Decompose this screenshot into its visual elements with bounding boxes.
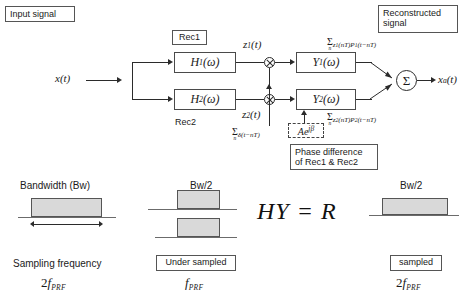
interpolator-y1-block: Y1(ω) <box>296 52 356 73</box>
phase-term-exponent: jβ <box>308 124 314 133</box>
y2-input-arrowhead-icon <box>290 96 295 102</box>
figure-root: { "annotations": { "input_signal": "Inpu… <box>0 0 466 302</box>
bandwidth-col3-rect <box>382 198 448 215</box>
bandwidth-col1-baseline <box>18 217 116 218</box>
phase-term-expression: Aejβ <box>298 124 314 137</box>
bandwidth-col2-rate: fPRF <box>185 275 203 292</box>
split-vertical-wire <box>132 62 133 99</box>
summation-node-icon: Σ <box>396 70 417 91</box>
bandwidth-col2-baseline-upper <box>148 209 237 210</box>
phase-difference-label: Phase difference of Rec1 & Rec2 <box>290 144 378 170</box>
y1-input-arrowhead-icon <box>290 59 295 65</box>
sampling-train-wire <box>269 68 270 126</box>
bandwidth-col3-caption: sampled <box>390 255 442 271</box>
input-signal-label: Input signal <box>5 6 75 22</box>
z1-wire <box>236 62 264 63</box>
signal-z2-arg: (t) <box>250 108 260 120</box>
bandwidth-col3-baseline <box>369 215 459 216</box>
input-wire <box>86 80 118 81</box>
rec2-label: Rec2 <box>175 117 196 127</box>
output-signal-label: xa(t) <box>438 73 457 85</box>
bandwidth-col2-rect-upper <box>177 190 220 209</box>
output-arg: (t) <box>447 73 457 85</box>
bandwidth-col1-rect <box>31 198 102 217</box>
filter-h1-block: H1(ω) <box>174 52 236 73</box>
bandwidth-col3-title: Bw/2 <box>400 180 422 191</box>
signal-z1-arg: (t) <box>251 38 261 50</box>
multiplier-1-icon <box>264 57 275 68</box>
delta-train-expression: δ(t−nT) <box>238 131 260 139</box>
y2-summer-diagonal-wire <box>370 82 394 100</box>
input-signal-arg: (t) <box>60 72 70 84</box>
phase-injection-arrowhead-icon <box>301 110 307 115</box>
signal-z2-label: z2(t) <box>242 108 260 120</box>
h2-input-arrowhead-icon <box>168 96 173 102</box>
phase-term-box: Aejβ <box>288 123 324 138</box>
filter-h2-name: H <box>190 92 199 107</box>
h2-input-wire <box>132 99 170 100</box>
filter-h1-arg: (ω) <box>203 55 219 70</box>
bandwidth-col3-rate: 2fPRF <box>396 275 421 292</box>
bandwidth-col1-title: Bandwidth (Bw) <box>20 180 90 191</box>
bandwidth-col2-rect-lower <box>177 218 220 237</box>
sampling-arrowhead-icon <box>266 84 272 89</box>
signal-z1-label: z1(t) <box>243 38 261 50</box>
branch2-mid: (nT)P <box>338 116 354 124</box>
filter-h2-block: H2(ω) <box>174 89 236 110</box>
interpolator-y2-block: Y2(ω) <box>296 89 356 110</box>
bandwidth-col1-caption: Sampling frequency <box>13 258 101 269</box>
col1-rate-sub: PRF <box>51 283 66 292</box>
col3-rate-sub: PRF <box>406 283 421 292</box>
col2-rate-sub: PRF <box>189 283 204 292</box>
branch2-tail: (t−nT) <box>357 116 376 124</box>
bandwidth-col2-caption: Under sampled <box>156 255 236 271</box>
interpolator-y2-arg: (ω) <box>323 92 339 107</box>
branch1-tail: (t−nT) <box>357 41 376 49</box>
h1-input-wire <box>132 62 170 63</box>
output-arrowhead-icon <box>431 77 436 83</box>
bandwidth-col2-baseline-lower <box>155 237 237 238</box>
interpolator-y2-name: Y <box>312 92 319 107</box>
interpolator-y1-name: Y <box>312 55 319 70</box>
phase-term-base: Ae <box>298 126 309 137</box>
summation-sigma-symbol: Σ <box>403 73 411 89</box>
y1-summer-diagonal-wire <box>370 62 394 80</box>
interpolator-y1-arg: (ω) <box>323 55 339 70</box>
reconstructed-signal-label: Reconstructed signal <box>378 5 458 33</box>
branch1-mid: (nT)P <box>338 41 354 49</box>
filter-h2-arg: (ω) <box>203 92 219 107</box>
delta-train-formula: Σ n δ(t−nT) <box>232 128 260 141</box>
bandwidth-col1-rate: 2fPRF <box>41 275 66 292</box>
rec1-label: Rec1 <box>172 30 207 45</box>
branch2-output-formula: Σ n z2(nT)P2(t−nT) <box>327 113 376 126</box>
z2-wire <box>236 99 264 100</box>
bandwidth-col1-width-arrow-icon <box>30 221 103 228</box>
h1-input-arrowhead-icon <box>168 59 173 65</box>
identity-equation: HY = R <box>257 198 337 225</box>
input-arrowhead-icon <box>117 77 122 83</box>
filter-h1-name: H <box>190 55 199 70</box>
input-signal-text: x(t) <box>55 72 70 84</box>
branch1-output-formula: Σ n z1(nT)P1(t−nT) <box>327 38 376 51</box>
